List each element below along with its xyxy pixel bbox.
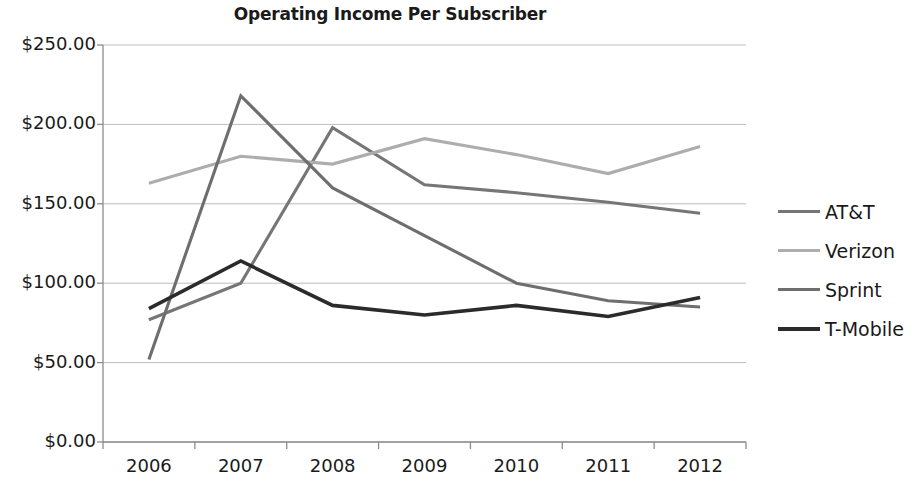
x-tick-label: 2011 (563, 455, 653, 476)
x-tick-label: 2006 (104, 455, 194, 476)
plot-area (0, 0, 913, 500)
x-tick-label: 2012 (655, 455, 745, 476)
series-line-t-mobile (149, 261, 700, 317)
legend-item-verizon[interactable]: Verizon (778, 231, 913, 270)
axis-ticks (97, 45, 746, 449)
y-tick-label: $150.00 (0, 192, 96, 213)
x-tick-label: 2010 (471, 455, 561, 476)
line-chart: Operating Income Per Subscriber $0.00$50… (0, 0, 913, 500)
series-line-verizon (149, 139, 700, 184)
legend-item-label: T-Mobile (825, 318, 904, 340)
legend-item-label: Verizon (825, 240, 895, 262)
y-tick-label: $250.00 (0, 33, 96, 54)
legend-item-sprint[interactable]: Sprint (778, 270, 913, 309)
y-tick-label: $50.00 (0, 351, 96, 372)
y-tick-label: $100.00 (0, 271, 96, 292)
legend-item-label: AT&T (825, 201, 875, 223)
y-tick-label: $200.00 (0, 112, 96, 133)
x-tick-label: 2007 (196, 455, 286, 476)
y-tick-label: $0.00 (0, 430, 96, 451)
legend-line-swatch (778, 249, 820, 252)
series-line-sprint (149, 96, 700, 360)
legend-line-swatch (778, 288, 820, 291)
legend-item-label: Sprint (825, 279, 882, 301)
legend-item-t-mobile[interactable]: T-Mobile (778, 309, 913, 348)
legend-item-at-t[interactable]: AT&T (778, 192, 913, 231)
x-tick-label: 2008 (288, 455, 378, 476)
legend-line-swatch (778, 327, 820, 331)
legend: AT&TVerizonSprintT-Mobile (778, 192, 913, 348)
series-lines (149, 96, 700, 360)
series-line-at-t (149, 128, 700, 320)
gridlines (103, 45, 746, 442)
x-tick-label: 2009 (380, 455, 470, 476)
legend-line-swatch (778, 210, 820, 213)
